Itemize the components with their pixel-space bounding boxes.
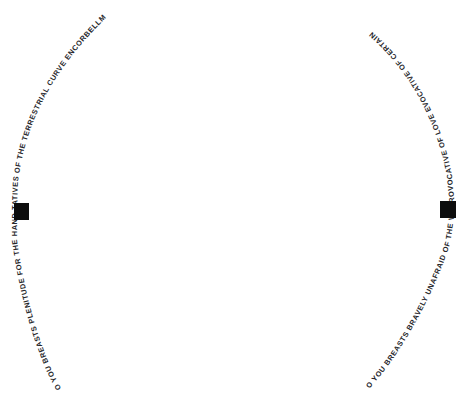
left-arc-textpath-upper: TATIVES OF THE TERRESTRIAL CURVE ENCORBE… xyxy=(0,0,108,210)
calligram-artwork: O YOU BREASTS PLENITUDE FOR THE HANDS RE… xyxy=(0,0,473,408)
nipple-square-left xyxy=(14,203,29,220)
left-arc-text-upper: TATIVES OF THE TERRESTRIAL CURVE ENCORBE… xyxy=(0,0,108,210)
right-arc-textpath-upper: PROVOCATIVE OF LOVE EVOCATIVE OF CERTAIN… xyxy=(0,0,457,209)
calligram-canvas: O YOU BREASTS PLENITUDE FOR THE HANDS RE… xyxy=(0,0,473,408)
right-arc-text-upper: PROVOCATIVE OF LOVE EVOCATIVE OF CERTAIN… xyxy=(0,0,457,209)
left-arc-text-lower: O YOU BREASTS PLENITUDE FOR THE HANDS RE… xyxy=(0,0,63,392)
nipple-square-right xyxy=(440,201,456,218)
left-arc-textpath-lower: O YOU BREASTS PLENITUDE FOR THE HANDS RE… xyxy=(0,0,63,392)
